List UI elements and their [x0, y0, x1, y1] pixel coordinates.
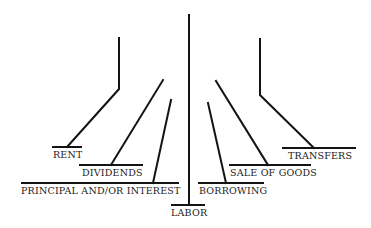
label-transfers: TRANSFERS [288, 151, 352, 161]
rent-branch [67, 38, 119, 147]
label-sale-of-goods: SALE OF GOODS [230, 168, 317, 178]
borrowing-branch [208, 103, 226, 183]
label-rent: RENT [53, 150, 83, 160]
income-sources-diagram: RENT DIVIDENDS PRINCIPAL AND/OR INTEREST… [0, 0, 371, 228]
transfers-branch [260, 39, 314, 148]
dividends-branch [111, 80, 163, 165]
principal-branch [153, 100, 171, 183]
label-principal-interest: PRINCIPAL AND/OR INTEREST [21, 186, 181, 196]
label-labor: LABOR [171, 208, 207, 218]
label-dividends: DIVIDENDS [82, 168, 143, 178]
label-borrowing: BORROWING [199, 186, 267, 196]
